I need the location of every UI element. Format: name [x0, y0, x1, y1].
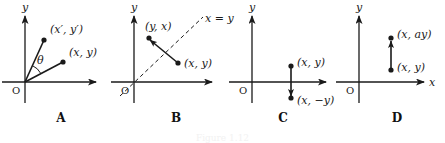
panel-b-point-label-2: (x, y)	[184, 58, 212, 69]
panel-caption-a: A	[41, 112, 81, 124]
panel-c-point-label-2: (x, −y)	[297, 95, 334, 106]
panel-a-point-label-2: (x, y)	[69, 47, 97, 58]
panel-d-x-axis-label: x	[429, 77, 435, 88]
panel-d-origin-label: O	[346, 86, 354, 96]
panel-a-origin-label: O	[12, 86, 20, 96]
point-marker-1	[146, 35, 151, 40]
panel-d-point-label-1: (x, ay)	[397, 29, 432, 40]
panel-c-origin-label: O	[239, 86, 247, 96]
panel-d-point-label-2: (x, y)	[397, 62, 425, 73]
point-marker-2	[288, 95, 293, 100]
point-marker-1	[288, 63, 293, 68]
panel-d-y-axis-label: y	[356, 2, 362, 13]
panel-a-y-axis-label: y	[22, 2, 28, 13]
figure-four-panel-transformations: yO(x′, y′)(x, y)θAyO(y, x)(x, y)x = yByO…	[0, 0, 445, 143]
point-marker-2	[60, 59, 65, 64]
panel-c-point-label-1: (x, y)	[297, 57, 325, 68]
vector-segment-2	[25, 62, 63, 82]
panel-b-y-axis-label: y	[131, 2, 137, 13]
panel-b-point-label-1: (y, x)	[145, 21, 172, 32]
panel-b-identity-line-label: x = y	[205, 13, 234, 24]
panel-caption-c: C	[263, 112, 303, 124]
point-marker-2	[175, 60, 180, 65]
panel-b-origin-label: O	[121, 86, 129, 96]
point-marker-1	[388, 35, 393, 40]
panel-c-y-axis-label: y	[249, 2, 255, 13]
point-marker-1	[41, 37, 46, 42]
panel-a-angle-label: θ	[37, 55, 44, 66]
panel-caption-b: B	[156, 112, 196, 124]
panel-a-point-label-1: (x′, y′)	[50, 24, 83, 35]
figure-caption: Figure 1.12	[0, 134, 445, 143]
panel-caption-d: D	[377, 112, 417, 124]
point-marker-2	[388, 67, 393, 72]
vector-segment-1	[150, 40, 178, 63]
